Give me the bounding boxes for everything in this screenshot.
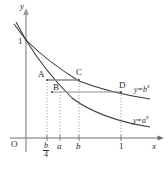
x-tick-label-1: 1 <box>119 142 124 151</box>
x-tick-label-b-over-4: b 4 <box>43 141 49 159</box>
point-label-D: D <box>119 81 126 90</box>
point-label-A: A <box>38 70 45 79</box>
x-tick-label-a: a <box>57 142 62 151</box>
curve-label-lower-base: y=a <box>133 116 146 125</box>
fraction-b-over-4: b 4 <box>43 142 49 159</box>
fraction-denominator: 4 <box>43 151 49 159</box>
x-axis-label: x <box>152 142 156 151</box>
y-axis-arrowhead <box>23 8 29 15</box>
point-dot-C <box>78 79 80 81</box>
curve-label-upper-exponent: x <box>147 83 150 89</box>
point-dot-A <box>46 79 48 81</box>
point-label-C: C <box>76 68 82 77</box>
point-dot-D <box>120 91 122 93</box>
point-label-B: B <box>53 83 59 92</box>
axes-group <box>10 8 164 152</box>
curve-label-lower: y=ax <box>133 114 149 125</box>
curve-label-upper: y=bx <box>134 83 150 94</box>
point-dot-y-intercept <box>25 39 27 41</box>
curve-label-lower-exponent: x <box>146 114 149 120</box>
y-intercept-label: 1 <box>18 37 23 46</box>
x-tick-label-b: b <box>76 142 81 151</box>
marked-points-group <box>25 39 122 93</box>
curve-y-equals-a-to-the-x <box>16 22 150 127</box>
math-figure: y x O 1 A B C D y=bx y=ax b 4 a b 1 <box>0 0 168 169</box>
curve-y-equals-b-to-the-x <box>14 24 150 99</box>
curve-label-upper-base: y=b <box>134 85 147 94</box>
x-axis-arrowhead <box>158 136 165 141</box>
origin-label: O <box>11 140 18 149</box>
y-axis-label: y <box>20 2 24 11</box>
